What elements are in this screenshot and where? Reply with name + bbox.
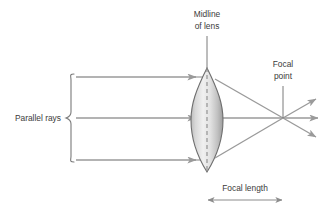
converging-ray-top <box>215 79 283 118</box>
lens-diagram: Midline of lens Focal point Parallel ray… <box>0 0 329 213</box>
parallel-rays-brace <box>66 74 74 162</box>
diverging-ray-upper <box>283 99 316 118</box>
midline-label-line1: Midline <box>194 9 221 19</box>
midline-label-line2: of lens <box>195 21 220 31</box>
converging-ray-bottom <box>215 118 283 158</box>
focal-length-label: Focal length <box>222 183 268 193</box>
focal-point-label-line1: Focal <box>273 59 294 69</box>
lens-diagram-canvas: Midline of lens Focal point Parallel ray… <box>0 0 329 213</box>
incoming-rays-group <box>76 77 196 160</box>
diverging-rays-group <box>283 99 318 137</box>
parallel-rays-label: Parallel rays <box>15 113 61 123</box>
diverging-ray-lower <box>283 118 316 137</box>
focal-point-label-line2: point <box>274 71 293 81</box>
